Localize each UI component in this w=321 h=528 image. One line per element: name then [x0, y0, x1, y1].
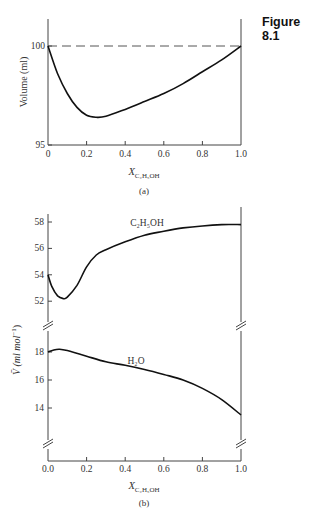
panel-a-label: (a)	[139, 186, 149, 196]
svg-text:0.8: 0.8	[196, 149, 208, 159]
panel-a-ticks: 00.20.40.60.81.095100	[31, 41, 247, 159]
svg-text:0.4: 0.4	[119, 149, 131, 159]
figure-canvas: 00.20.40.60.81.095100 Volume (ml) XC₂H₅O…	[0, 0, 321, 528]
svg-text:18: 18	[35, 347, 45, 357]
panel-b: 0.00.20.40.60.81.052545658141618 C₂H₅OH …	[10, 207, 247, 508]
svg-text:1.0: 1.0	[235, 464, 247, 474]
svg-text:56: 56	[35, 243, 45, 253]
svg-text:0.4: 0.4	[119, 464, 131, 474]
panel-b-x-label: XC₂H₅OH	[127, 480, 159, 494]
panel-b-ethanol-label: C₂H₅OH	[130, 218, 164, 228]
panel-b-ethanol-curve	[48, 225, 241, 299]
panel-a-volume-curve	[48, 46, 241, 117]
svg-text:0.8: 0.8	[196, 464, 208, 474]
svg-text:0.6: 0.6	[158, 464, 170, 474]
svg-text:0.2: 0.2	[81, 149, 93, 159]
figure: Figure 8.1 00.20.40.60.81.095100 Volume …	[0, 0, 321, 528]
svg-text:52: 52	[35, 296, 45, 306]
panel-b-y-label: V̄ (ml mol−1)	[10, 325, 23, 375]
svg-text:0: 0	[46, 149, 51, 159]
panel-a-y-label: Volume (ml)	[18, 57, 30, 108]
svg-text:0.0: 0.0	[42, 464, 54, 474]
svg-text:100: 100	[31, 41, 46, 51]
panel-a: 00.20.40.60.81.095100 Volume (ml) XC₂H₅O…	[18, 19, 247, 196]
svg-text:0.2: 0.2	[81, 464, 93, 474]
panel-b-water-label: H₂O	[127, 356, 144, 366]
svg-text:54: 54	[35, 270, 45, 280]
panel-b-ticks: 0.00.20.40.60.81.052545658141618	[35, 217, 248, 474]
panel-a-x-label: XC₂H₅OH	[127, 166, 159, 180]
panel-b-label: (b)	[139, 498, 150, 508]
panel-b-axes	[43, 207, 246, 461]
svg-text:95: 95	[36, 140, 46, 150]
svg-text:1.0: 1.0	[235, 149, 247, 159]
svg-text:16: 16	[35, 375, 45, 385]
figure-label: Figure 8.1	[262, 15, 321, 43]
svg-text:14: 14	[35, 403, 45, 413]
svg-text:58: 58	[35, 217, 45, 227]
svg-text:0.6: 0.6	[158, 149, 170, 159]
